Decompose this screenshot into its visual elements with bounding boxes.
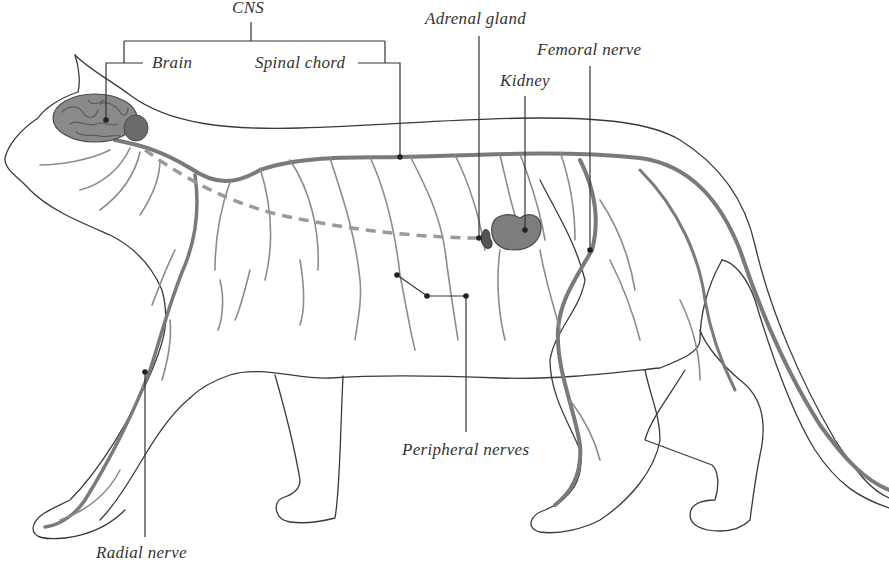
label-brain: Brain [152, 53, 192, 73]
diagram-illustration [0, 0, 889, 580]
kidney [492, 215, 541, 250]
cat-nervous-system-diagram: CNS Brain Spinal chord Adrenal gland Fem… [0, 0, 889, 580]
label-radial-nerve: Radial nerve [96, 543, 187, 563]
label-kidney: Kidney [500, 71, 550, 91]
peripheral-nerves-leader [397, 275, 466, 432]
spinal-cord [115, 140, 889, 490]
brain [53, 94, 148, 142]
label-adrenal-gland: Adrenal gland [425, 9, 526, 29]
label-cns: CNS [232, 0, 264, 18]
label-femoral-nerve: Femoral nerve [537, 40, 641, 60]
spinal-chord-leader [358, 63, 400, 157]
label-spinal-chord: Spinal chord [255, 53, 345, 73]
adrenal-gland [481, 229, 492, 248]
label-peripheral-nerves: Peripheral nerves [402, 440, 529, 460]
